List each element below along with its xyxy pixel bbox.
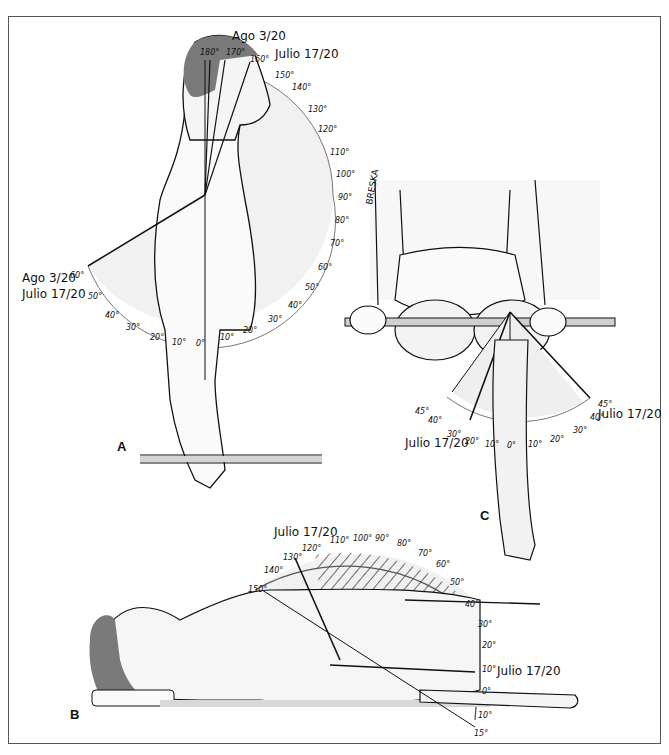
svg-text:10°: 10° xyxy=(528,440,542,449)
svg-text:40°: 40° xyxy=(465,600,479,609)
svg-text:130°: 130° xyxy=(283,553,302,562)
svg-text:120°: 120° xyxy=(318,125,337,134)
svg-text:90°: 90° xyxy=(375,534,389,543)
svg-text:80°: 80° xyxy=(335,216,349,225)
svg-text:60°: 60° xyxy=(436,560,450,569)
svg-text:130°: 130° xyxy=(308,105,327,114)
annotation-julio-right: Julio 17/20 xyxy=(597,407,662,421)
annotation-ago-side: Ago 3/20 xyxy=(22,271,76,285)
annotation-julio-side: Julio 17/20 xyxy=(21,287,86,301)
svg-text:40°: 40° xyxy=(590,413,604,422)
panel-a: Ago 3/20 Julio 17/20 Ago 3/20 Julio 17/2… xyxy=(21,29,355,488)
svg-text:50°: 50° xyxy=(305,283,319,292)
left-hand xyxy=(350,306,386,334)
svg-text:30°: 30° xyxy=(573,426,587,435)
svg-text:90°: 90° xyxy=(338,193,352,202)
svg-text:140°: 140° xyxy=(292,83,311,92)
svg-text:30°: 30° xyxy=(126,323,140,332)
svg-text:120°: 120° xyxy=(302,544,321,553)
annotation-julio-top-b: Julio 17/20 xyxy=(273,525,338,539)
svg-text:0°: 0° xyxy=(482,687,491,696)
body-b xyxy=(100,589,480,704)
svg-text:45°: 45° xyxy=(598,400,612,409)
svg-text:45°: 45° xyxy=(415,407,429,416)
panel-label-b: B xyxy=(70,707,79,722)
annotation-julio-top: Julio 17/20 xyxy=(274,47,339,61)
svg-text:10°: 10° xyxy=(172,338,186,347)
svg-text:20°: 20° xyxy=(150,333,164,342)
svg-text:170°: 170° xyxy=(226,48,245,57)
svg-text:0°: 0° xyxy=(507,441,516,450)
svg-text:150°: 150° xyxy=(248,585,267,594)
svg-text:70°: 70° xyxy=(418,549,432,558)
svg-text:40°: 40° xyxy=(105,311,119,320)
svg-text:20°: 20° xyxy=(550,435,564,444)
svg-text:0°: 0° xyxy=(196,339,205,348)
svg-text:10°: 10° xyxy=(482,665,496,674)
rom-diagram: Ago 3/20 Julio 17/20 Ago 3/20 Julio 17/2… xyxy=(0,0,669,755)
panel-label-a: A xyxy=(117,439,127,454)
svg-text:15°: 15° xyxy=(474,729,488,738)
svg-text:10°: 10° xyxy=(485,440,499,449)
panel-label-c: C xyxy=(480,508,490,523)
svg-text:50°: 50° xyxy=(450,578,464,587)
svg-text:60°: 60° xyxy=(318,263,332,272)
svg-text:50°: 50° xyxy=(88,292,102,301)
panel-c: BRESKA Julio 17/20 Julio 17/20 45° 40° 3… xyxy=(345,168,662,560)
svg-text:100°: 100° xyxy=(353,534,372,543)
svg-text:150°: 150° xyxy=(275,71,294,80)
svg-text:60°: 60° xyxy=(70,271,84,280)
annotation-julio-right-b: Julio 17/20 xyxy=(496,664,561,678)
svg-text:180°: 180° xyxy=(200,48,219,57)
svg-text:70°: 70° xyxy=(330,239,344,248)
right-hand xyxy=(530,308,566,336)
svg-text:10°: 10° xyxy=(220,333,234,342)
svg-text:40°: 40° xyxy=(288,301,302,310)
svg-text:160°: 160° xyxy=(250,55,269,64)
svg-text:30°: 30° xyxy=(478,620,492,629)
svg-text:20°: 20° xyxy=(465,437,479,446)
svg-text:20°: 20° xyxy=(243,326,257,335)
svg-text:30°: 30° xyxy=(268,315,282,324)
svg-text:110°: 110° xyxy=(330,148,349,157)
annotation-ago-top: Ago 3/20 xyxy=(232,29,286,43)
svg-text:20°: 20° xyxy=(482,641,496,650)
svg-text:100°: 100° xyxy=(336,170,355,179)
svg-text:40°: 40° xyxy=(428,416,442,425)
svg-text:10°: 10° xyxy=(478,711,492,720)
svg-text:140°: 140° xyxy=(264,566,283,575)
left-knee xyxy=(395,300,475,360)
svg-text:80°: 80° xyxy=(397,539,411,548)
panel-b: Julio 17/20 Julio 17/20 150° 140° 130° 1… xyxy=(70,525,578,738)
svg-text:30°: 30° xyxy=(447,430,461,439)
svg-text:110°: 110° xyxy=(330,536,349,545)
